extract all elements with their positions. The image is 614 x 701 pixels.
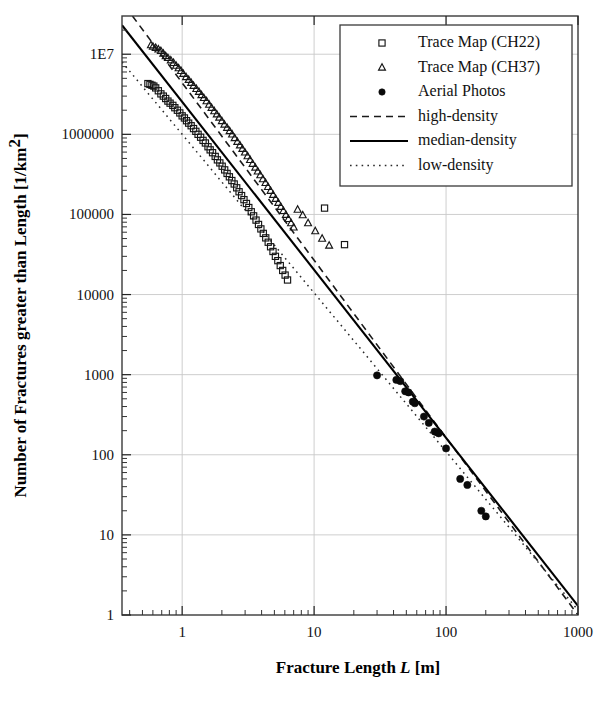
marker-filled-circle <box>420 413 427 420</box>
y-tick-label: 10 <box>99 527 114 543</box>
marker-open-triangle <box>305 219 312 225</box>
marker-open-square <box>341 242 347 248</box>
y-tick-label: 1000 <box>84 367 114 383</box>
chart-page: 11010010001E7100000010000010000100010010… <box>0 0 614 701</box>
x-tick-label: 1000 <box>563 624 593 640</box>
legend-label: median-density <box>418 131 517 149</box>
legend-label: Trace Map (CH22) <box>418 33 540 51</box>
y-tick-label: 100 <box>92 447 115 463</box>
legend-label: high-density <box>418 107 498 125</box>
marker-filled-circle <box>373 372 380 379</box>
marker-filled-circle <box>457 475 464 482</box>
marker-filled-circle <box>379 89 385 95</box>
marker-filled-circle <box>411 400 418 407</box>
marker-open-triangle <box>312 227 319 233</box>
x-axis-title-symbol: L <box>399 658 410 677</box>
legend-label: Aerial Photos <box>418 82 506 99</box>
legend-group: Trace Map (CH22)Trace Map (CH37)Aerial P… <box>340 25 572 186</box>
marker-open-square <box>246 204 252 210</box>
y-tick-label: 1000000 <box>62 126 115 142</box>
marker-filled-circle <box>464 481 471 488</box>
marker-open-square <box>251 213 257 219</box>
y-tick-label: 100000 <box>69 206 114 222</box>
marker-open-square <box>238 192 244 198</box>
x-tick-label: 10 <box>307 624 322 640</box>
series-Aerial Photos <box>373 372 489 520</box>
marker-open-square <box>234 185 240 191</box>
marker-open-square <box>255 221 261 227</box>
marker-open-square <box>321 205 327 211</box>
marker-open-triangle <box>319 235 326 241</box>
marker-open-square <box>265 239 271 245</box>
y-tick-label: 1E7 <box>90 46 115 62</box>
x-axis-title-units: [m] <box>411 658 441 677</box>
x-axis-title-text: Fracture Length <box>276 658 400 677</box>
y-tick-label: 1 <box>107 607 115 623</box>
marker-open-square <box>258 226 264 232</box>
log-log-scatter-chart: 11010010001E7100000010000010000100010010… <box>0 0 614 701</box>
marker-filled-circle <box>442 445 449 452</box>
marker-open-square <box>241 197 247 203</box>
marker-open-triangle <box>290 224 297 230</box>
marker-open-triangle <box>326 242 333 248</box>
legend-label: Trace Map (CH37) <box>418 58 540 76</box>
marker-open-square <box>263 235 269 241</box>
y-axis-title-text: Number of Fractures greater than Length … <box>11 148 30 498</box>
x-tick-label: 1 <box>178 624 186 640</box>
y-tick-label: 10000 <box>77 287 115 303</box>
y-axis-title-close: ] <box>11 133 30 139</box>
y-axis-title: Number of Fractures greater than Length … <box>5 133 30 497</box>
marker-open-square <box>236 189 242 195</box>
y-axis-title-exponent: 2 <box>5 139 24 148</box>
marker-open-triangle <box>294 206 301 212</box>
marker-filled-circle <box>397 378 404 385</box>
marker-filled-circle <box>405 389 412 396</box>
marker-filled-circle <box>482 513 489 520</box>
marker-filled-circle <box>435 430 442 437</box>
series-Trace Map (CH37) <box>147 41 332 248</box>
x-axis-title: Fracture Length L [m] <box>276 658 440 677</box>
marker-open-square <box>243 200 249 206</box>
marker-filled-circle <box>425 419 432 426</box>
y-axis-title-group: Number of Fractures greater than Length … <box>5 133 30 497</box>
x-tick-label: 100 <box>435 624 458 640</box>
legend-label: low-density <box>418 156 494 174</box>
